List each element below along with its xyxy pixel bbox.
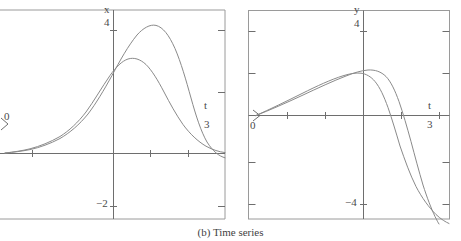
right-vertical-axis-label: y	[354, 4, 360, 15]
right-horizontal-axis-label: t	[428, 100, 431, 111]
right-origin-label: 0	[250, 120, 256, 131]
right-panel-plot	[0, 0, 461, 241]
right-panel-frame	[249, 11, 450, 220]
right-ytick-label-neg4: −4	[345, 197, 357, 208]
right-ytick-label-4: 4	[354, 18, 360, 29]
right-panel-y-vs-t: y 4 t 3 0 −4	[0, 0, 461, 241]
figure-caption: (b) Time series	[0, 226, 461, 238]
right-xtick-label-3: 3	[427, 119, 433, 130]
time-series-figure: x 4 t 3 0 −2	[0, 0, 461, 241]
